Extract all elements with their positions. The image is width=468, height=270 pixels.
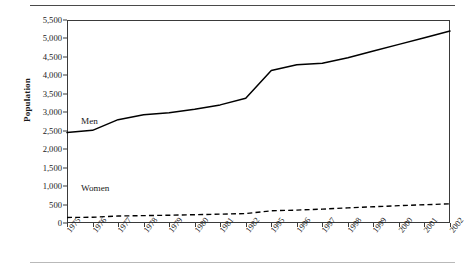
y-tick-label: 2,000	[43, 144, 62, 154]
top-divider-rule	[30, 5, 455, 6]
y-tick-label: 1,500	[43, 163, 62, 173]
y-tick-label: 0	[58, 218, 62, 228]
series-label-women: Women	[81, 183, 109, 193]
y-tick-label: 1,000	[43, 181, 62, 191]
y-tick-label: 3,500	[43, 89, 62, 99]
series-line-women	[67, 204, 450, 218]
series-line-men	[67, 31, 450, 133]
y-tick-label: 3,000	[43, 107, 62, 117]
y-axis-title: Population	[22, 65, 32, 135]
y-tick-label: 5,500	[43, 15, 62, 25]
series-lines	[67, 20, 450, 223]
series-label-men: Men	[81, 116, 98, 126]
y-tick-label: 4,500	[43, 52, 62, 62]
y-tick-label: 2,500	[43, 126, 62, 136]
x-tick-label: 2002	[448, 216, 465, 235]
y-tick-label: 5,000	[43, 33, 62, 43]
y-tick-label: 4,000	[43, 70, 62, 80]
y-tick-label: 500	[49, 200, 62, 210]
plot-area: 5,5005,0004,5004,0003,5003,0002,5002,000…	[67, 20, 450, 223]
bottom-divider-rule	[30, 262, 455, 263]
chart-figure: Population 5,5005,0004,5004,0003,5003,00…	[0, 0, 468, 270]
